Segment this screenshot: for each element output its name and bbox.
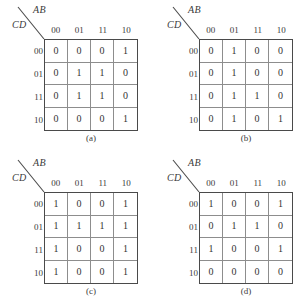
kmap-b-column-headers: 00 01 11 10 bbox=[199, 23, 293, 38]
kmap-a: AB CD 00 01 11 10 00 01 11 10 0 0 0 1 0 … bbox=[3, 2, 143, 150]
kmap-d-cell-0-1: 0 bbox=[223, 193, 246, 216]
kmap-d-cell-0-2: 0 bbox=[246, 193, 269, 216]
kmap-a-cell-1-3: 0 bbox=[114, 63, 137, 86]
kmap-b-row-header-2: 11 bbox=[178, 85, 198, 108]
kmap-b-row-headers: 00 01 11 10 bbox=[178, 39, 198, 131]
kmap-d-cell-1-3: 0 bbox=[269, 216, 292, 239]
kmap-d-col-header-0: 00 bbox=[199, 176, 223, 191]
kmap-c-cell-2-3: 1 bbox=[114, 238, 137, 261]
kmap-c-row-header-1: 01 bbox=[23, 215, 43, 238]
kmap-a-cell-0-1: 0 bbox=[68, 40, 91, 63]
kmap-d-col-header-2: 11 bbox=[246, 176, 270, 191]
kmap-a-cell-2-3: 0 bbox=[114, 85, 137, 108]
kmap-d-cell-2-0: 1 bbox=[200, 238, 223, 261]
kmap-d-column-headers: 00 01 11 10 bbox=[199, 176, 293, 191]
kmap-c-cell-3-0: 1 bbox=[45, 261, 68, 284]
kmap-c-cell-1-2: 1 bbox=[91, 216, 114, 239]
kmap-a-caption: (a) bbox=[44, 133, 138, 143]
kmap-b-cell-0-3: 0 bbox=[269, 40, 292, 63]
kmap-d-col-header-1: 01 bbox=[223, 176, 247, 191]
kmap-c-cell-1-1: 1 bbox=[68, 216, 91, 239]
kmap-b-col-header-1: 01 bbox=[223, 23, 247, 38]
kmap-a-row-headers: 00 01 11 10 bbox=[23, 39, 43, 131]
kmap-b-cell-3-1: 1 bbox=[223, 108, 246, 131]
kmap-d-cell-2-1: 0 bbox=[223, 238, 246, 261]
kmap-c-row-header-2: 11 bbox=[23, 238, 43, 261]
kmap-b-cell-3-2: 0 bbox=[246, 108, 269, 131]
kmap-a-row-header-0: 00 bbox=[23, 39, 43, 62]
kmap-b-grid: 0 1 0 0 0 1 0 0 0 1 1 0 0 1 0 1 bbox=[199, 39, 293, 131]
kmap-a-cell-1-1: 1 bbox=[68, 63, 91, 86]
kmap-c-row-variable-label: CD bbox=[12, 172, 27, 183]
kmap-a-col-header-3: 10 bbox=[115, 23, 139, 38]
kmap-b: AB CD 00 01 11 10 00 01 11 10 0 1 0 0 0 … bbox=[158, 2, 298, 150]
kmap-b-row-header-3: 10 bbox=[178, 108, 198, 131]
kmap-a-cell-0-0: 0 bbox=[45, 40, 68, 63]
kmap-d-cell-3-2: 0 bbox=[246, 261, 269, 284]
kmap-d-cell-0-3: 1 bbox=[269, 193, 292, 216]
kmap-a-row-header-3: 10 bbox=[23, 108, 43, 131]
kmap-b-caption: (b) bbox=[199, 133, 293, 143]
kmap-a-cell-1-2: 1 bbox=[91, 63, 114, 86]
kmap-a-col-header-1: 01 bbox=[68, 23, 92, 38]
kmap-a-cell-3-2: 0 bbox=[91, 108, 114, 131]
kmap-a-col-header-0: 00 bbox=[44, 23, 68, 38]
kmap-a-cell-2-0: 0 bbox=[45, 85, 68, 108]
kmap-b-cell-1-2: 0 bbox=[246, 63, 269, 86]
kmap-c-col-header-0: 00 bbox=[44, 176, 68, 191]
kmap-c-grid: 1 0 0 1 1 1 1 1 1 0 0 1 1 0 0 1 bbox=[44, 192, 138, 284]
kmap-a-col-header-2: 11 bbox=[91, 23, 115, 38]
kmap-b-cell-2-2: 1 bbox=[246, 85, 269, 108]
kmap-c-col-variable-label: AB bbox=[33, 157, 46, 168]
kmap-a-cell-3-3: 1 bbox=[114, 108, 137, 131]
kmap-d-col-variable-label: AB bbox=[188, 157, 201, 168]
kmap-d: AB CD 00 01 11 10 00 01 11 10 1 0 0 1 0 … bbox=[158, 155, 298, 303]
kmap-d-row-header-3: 10 bbox=[178, 261, 198, 284]
kmap-b-cell-1-3: 0 bbox=[269, 63, 292, 86]
kmap-c-cell-2-2: 0 bbox=[91, 238, 114, 261]
kmap-c: AB CD 00 01 11 10 00 01 11 10 1 0 0 1 1 … bbox=[3, 155, 143, 303]
kmap-c-cell-0-1: 0 bbox=[68, 193, 91, 216]
kmap-c-caption: (c) bbox=[44, 286, 138, 296]
kmap-d-grid: 1 0 0 1 0 1 1 0 1 0 0 1 0 0 0 0 bbox=[199, 192, 293, 284]
kmap-a-cell-3-0: 0 bbox=[45, 108, 68, 131]
kmap-d-cell-1-2: 1 bbox=[246, 216, 269, 239]
kmap-a-col-variable-label: AB bbox=[33, 4, 46, 15]
kmap-b-cell-1-0: 0 bbox=[200, 63, 223, 86]
kmap-d-row-header-2: 11 bbox=[178, 238, 198, 261]
kmap-b-cell-3-0: 0 bbox=[200, 108, 223, 131]
kmap-a-row-variable-label: CD bbox=[12, 19, 27, 30]
kmap-a-cell-3-1: 0 bbox=[68, 108, 91, 131]
kmap-d-cell-1-1: 1 bbox=[223, 216, 246, 239]
kmap-c-cell-2-0: 1 bbox=[45, 238, 68, 261]
kmap-a-row-header-2: 11 bbox=[23, 85, 43, 108]
kmap-a-grid: 0 0 0 1 0 1 1 0 0 1 1 0 0 0 0 1 bbox=[44, 39, 138, 131]
kmap-b-cell-0-1: 1 bbox=[223, 40, 246, 63]
kmap-d-cell-2-2: 0 bbox=[246, 238, 269, 261]
kmap-d-caption: (d) bbox=[199, 286, 293, 296]
kmap-a-cell-2-2: 1 bbox=[91, 85, 114, 108]
kmap-c-row-headers: 00 01 11 10 bbox=[23, 192, 43, 284]
kmap-b-cell-2-3: 0 bbox=[269, 85, 292, 108]
kmap-a-cell-0-3: 1 bbox=[114, 40, 137, 63]
kmap-b-row-variable-label: CD bbox=[167, 19, 182, 30]
kmap-b-cell-0-2: 0 bbox=[246, 40, 269, 63]
kmap-d-cell-3-0: 0 bbox=[200, 261, 223, 284]
kmap-b-col-header-0: 00 bbox=[199, 23, 223, 38]
kmap-c-col-header-2: 11 bbox=[91, 176, 115, 191]
kmap-d-row-header-0: 00 bbox=[178, 192, 198, 215]
kmap-d-cell-3-1: 0 bbox=[223, 261, 246, 284]
kmap-c-cell-3-2: 0 bbox=[91, 261, 114, 284]
kmap-c-col-header-3: 10 bbox=[115, 176, 139, 191]
kmap-d-cell-0-0: 1 bbox=[200, 193, 223, 216]
kmap-a-cell-1-0: 0 bbox=[45, 63, 68, 86]
kmap-c-cell-0-0: 1 bbox=[45, 193, 68, 216]
kmap-d-row-headers: 00 01 11 10 bbox=[178, 192, 198, 284]
kmap-a-cell-0-2: 0 bbox=[91, 40, 114, 63]
kmap-d-cell-1-0: 0 bbox=[200, 216, 223, 239]
kmap-c-cell-1-3: 1 bbox=[114, 216, 137, 239]
kmap-b-col-header-2: 11 bbox=[246, 23, 270, 38]
kmap-c-cell-2-1: 0 bbox=[68, 238, 91, 261]
kmap-b-cell-2-1: 1 bbox=[223, 85, 246, 108]
kmap-b-col-variable-label: AB bbox=[188, 4, 201, 15]
